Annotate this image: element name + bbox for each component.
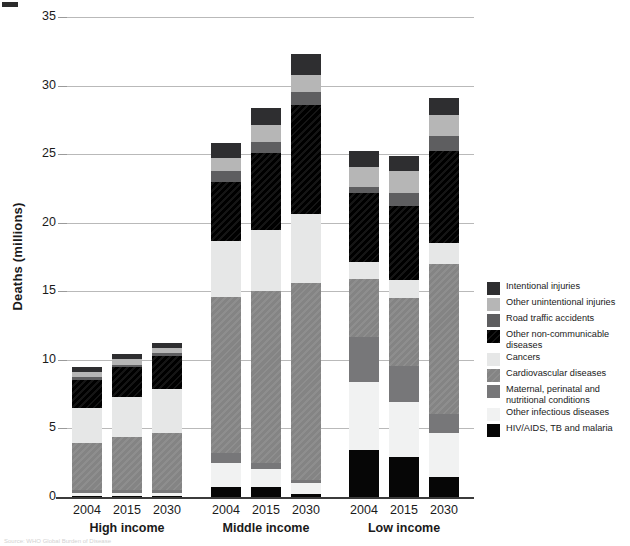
segment-cardio[interactable] bbox=[211, 297, 241, 453]
bar-middle-income-2030[interactable] bbox=[291, 0, 321, 546]
legend-item-intentional[interactable]: Intentional injuries bbox=[487, 281, 627, 295]
segment-hiv[interactable] bbox=[429, 477, 459, 497]
segment-otherinf[interactable] bbox=[112, 493, 142, 496]
segment-cancers[interactable] bbox=[211, 241, 241, 298]
segment-hiv[interactable] bbox=[211, 487, 241, 497]
segment-maternal[interactable] bbox=[72, 490, 102, 493]
legend-item-cancers[interactable]: Cancers bbox=[487, 352, 627, 366]
segment-road[interactable] bbox=[112, 365, 142, 368]
segment-otherunint[interactable] bbox=[389, 171, 419, 192]
segment-road[interactable] bbox=[72, 377, 102, 380]
segment-otherinf[interactable] bbox=[251, 469, 281, 488]
segment-noncomm[interactable] bbox=[112, 367, 142, 396]
segment-otherinf[interactable] bbox=[72, 493, 102, 496]
segment-cardio[interactable] bbox=[152, 433, 182, 491]
segment-maternal[interactable] bbox=[389, 366, 419, 402]
segment-road[interactable] bbox=[211, 171, 241, 181]
segment-cardio[interactable] bbox=[72, 443, 102, 490]
legend-item-hiv[interactable]: HIV/AIDS, TB and malaria bbox=[487, 423, 627, 437]
bar-middle-income-2004[interactable] bbox=[211, 0, 241, 546]
segment-otherunint[interactable] bbox=[211, 158, 241, 172]
segment-otherinf[interactable] bbox=[389, 402, 419, 458]
segment-cardio[interactable] bbox=[112, 437, 142, 490]
segment-otherunint[interactable] bbox=[429, 115, 459, 136]
legend-label-otherinf: Other infectious diseases bbox=[506, 407, 609, 418]
segment-intentional[interactable] bbox=[211, 143, 241, 157]
segment-road[interactable] bbox=[152, 353, 182, 356]
segment-otherunint[interactable] bbox=[112, 359, 142, 364]
bar-high-income-2015[interactable] bbox=[112, 0, 142, 546]
legend-item-maternal[interactable]: Maternal, perinatal and nutritional cond… bbox=[487, 384, 627, 405]
segment-otherunint[interactable] bbox=[152, 348, 182, 353]
segment-intentional[interactable] bbox=[291, 54, 321, 75]
segment-road[interactable] bbox=[251, 142, 281, 153]
bar-low-income-2015[interactable] bbox=[389, 0, 419, 546]
segment-otherinf[interactable] bbox=[349, 382, 379, 449]
segment-cancers[interactable] bbox=[429, 243, 459, 264]
segment-maternal[interactable] bbox=[112, 490, 142, 493]
segment-hiv[interactable] bbox=[251, 487, 281, 497]
segment-hiv[interactable] bbox=[349, 450, 379, 497]
segment-intentional[interactable] bbox=[349, 151, 379, 167]
segment-intentional[interactable] bbox=[251, 108, 281, 125]
segment-maternal[interactable] bbox=[291, 480, 321, 483]
segment-intentional[interactable] bbox=[429, 98, 459, 115]
segment-hiv[interactable] bbox=[291, 494, 321, 497]
segment-intentional[interactable] bbox=[72, 367, 102, 372]
segment-cancers[interactable] bbox=[72, 408, 102, 443]
segment-cancers[interactable] bbox=[291, 214, 321, 283]
bar-high-income-2030[interactable] bbox=[152, 0, 182, 546]
segment-noncomm[interactable] bbox=[349, 193, 379, 262]
segment-maternal[interactable] bbox=[251, 463, 281, 469]
segment-road[interactable] bbox=[349, 187, 379, 192]
segment-road[interactable] bbox=[291, 92, 321, 105]
segment-maternal[interactable] bbox=[349, 337, 379, 382]
segment-hiv[interactable] bbox=[152, 496, 182, 497]
segment-maternal[interactable] bbox=[429, 414, 459, 433]
segment-noncomm[interactable] bbox=[251, 153, 281, 230]
segment-otherunint[interactable] bbox=[72, 372, 102, 377]
segment-cardio[interactable] bbox=[291, 283, 321, 480]
segment-road[interactable] bbox=[389, 193, 419, 206]
legend-item-otherunint[interactable]: Other unintentional injuries bbox=[487, 297, 627, 311]
segment-cancers[interactable] bbox=[349, 262, 379, 279]
segment-intentional[interactable] bbox=[389, 156, 419, 172]
segment-otherinf[interactable] bbox=[291, 483, 321, 493]
segment-cardio[interactable] bbox=[251, 291, 281, 463]
segment-cardio[interactable] bbox=[429, 264, 459, 414]
segment-hiv[interactable] bbox=[389, 457, 419, 497]
legend-item-noncomm[interactable]: Other non-communicable diseases bbox=[487, 329, 627, 350]
segment-noncomm[interactable] bbox=[72, 380, 102, 408]
segment-otherinf[interactable] bbox=[429, 433, 459, 478]
legend-item-road[interactable]: Road traffic accidents bbox=[487, 313, 627, 327]
segment-otherunint[interactable] bbox=[291, 75, 321, 92]
segment-cancers[interactable] bbox=[389, 280, 419, 298]
bar-low-income-2030[interactable] bbox=[429, 0, 459, 546]
bar-middle-income-2015[interactable] bbox=[251, 0, 281, 546]
segment-otherunint[interactable] bbox=[349, 167, 379, 187]
segment-hiv[interactable] bbox=[112, 496, 142, 497]
segment-otherinf[interactable] bbox=[152, 493, 182, 496]
bar-low-income-2004[interactable] bbox=[349, 0, 379, 546]
segment-intentional[interactable] bbox=[152, 343, 182, 348]
segment-otherunint[interactable] bbox=[251, 125, 281, 141]
segment-cancers[interactable] bbox=[152, 389, 182, 433]
segment-intentional[interactable] bbox=[112, 354, 142, 359]
segment-maternal[interactable] bbox=[152, 490, 182, 493]
segment-cardio[interactable] bbox=[349, 279, 379, 337]
segment-hiv[interactable] bbox=[72, 496, 102, 497]
segment-maternal[interactable] bbox=[211, 453, 241, 463]
segment-road[interactable] bbox=[429, 136, 459, 150]
segment-noncomm[interactable] bbox=[429, 151, 459, 243]
bar-high-income-2004[interactable] bbox=[72, 0, 102, 546]
segment-cancers[interactable] bbox=[112, 397, 142, 437]
segment-noncomm[interactable] bbox=[211, 182, 241, 241]
segment-noncomm[interactable] bbox=[291, 105, 321, 214]
legend-item-cardio[interactable]: Cardiovascular diseases bbox=[487, 368, 627, 382]
segment-otherinf[interactable] bbox=[211, 463, 241, 487]
segment-cancers[interactable] bbox=[251, 230, 281, 291]
segment-noncomm[interactable] bbox=[152, 356, 182, 389]
segment-cardio[interactable] bbox=[389, 298, 419, 366]
segment-noncomm[interactable] bbox=[389, 206, 419, 281]
legend-item-otherinf[interactable]: Other infectious diseases bbox=[487, 407, 627, 421]
